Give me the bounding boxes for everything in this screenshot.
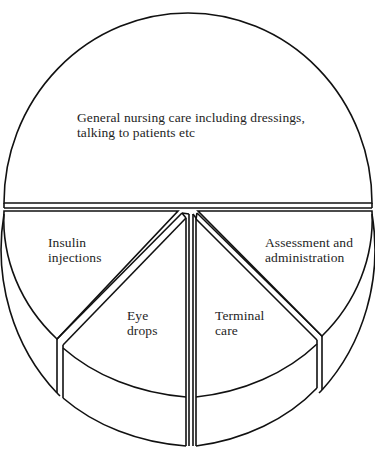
label-general-nursing-care: General nursing care including dressings…: [77, 110, 305, 140]
label-general-line2: talking to patients etc: [77, 125, 305, 140]
label-eye-drops: Eye drops: [127, 308, 158, 338]
label-terminal-line2: care: [215, 323, 264, 338]
label-eye-drops-line2: drops: [127, 323, 158, 338]
pie-graphic: [0, 0, 375, 449]
label-terminal-line1: Terminal: [215, 308, 264, 323]
label-assessment-administration: Assessment and administration: [265, 235, 353, 265]
label-assessment-line2: administration: [265, 250, 353, 265]
label-insulin-line1: Insulin: [48, 235, 102, 250]
label-insulin-line2: injections: [48, 250, 102, 265]
label-insulin-injections: Insulin injections: [48, 235, 102, 265]
label-terminal-care: Terminal care: [215, 308, 264, 338]
exploded-pie-chart: General nursing care including dressings…: [0, 0, 375, 449]
label-assessment-line1: Assessment and: [265, 235, 353, 250]
label-general-line1: General nursing care including dressings…: [77, 110, 305, 125]
label-eye-drops-line1: Eye: [127, 308, 158, 323]
